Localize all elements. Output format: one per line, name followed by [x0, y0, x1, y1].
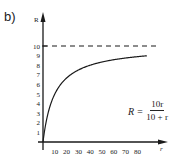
x-tick-label: 60	[110, 148, 118, 156]
formula-lhs: R =	[128, 106, 143, 117]
x-tick-label: 70	[122, 148, 130, 156]
formula-numerator: 10r	[150, 99, 164, 111]
y-tick-label: 2	[37, 119, 41, 127]
y-tick-label: 8	[37, 62, 41, 70]
y-tick-label: 3	[37, 110, 41, 118]
y-tick-label: 1	[37, 129, 41, 137]
y-tick-label: 6	[37, 81, 41, 89]
y-tick-label: 10	[33, 43, 41, 51]
y-tick-label: 4	[37, 100, 41, 108]
x-axis-label: r	[160, 145, 163, 153]
formula-fraction: 10r 10 + r	[146, 99, 168, 123]
formula-annotation: R = 10r 10 + r	[128, 99, 168, 123]
y-axis-arrow-icon	[41, 12, 46, 22]
y-tick-label: 7	[37, 71, 41, 79]
x-axis-arrow-icon	[158, 140, 168, 145]
y-tick-label: 9	[37, 52, 41, 60]
x-tick-label: 40	[87, 148, 95, 156]
x-tick-label: 10	[51, 148, 59, 156]
chart-figure: b) Rr123456789101020304050607080 R = 10r…	[0, 0, 182, 166]
x-tick-label: 20	[63, 148, 71, 156]
x-tick-label: 50	[99, 148, 107, 156]
formula-denominator: 10 + r	[146, 111, 168, 123]
x-tick-label: 30	[75, 148, 83, 156]
y-axis-label: R	[34, 16, 39, 24]
y-tick-label: 5	[37, 91, 41, 99]
x-tick-label: 80	[134, 148, 142, 156]
plot-area: Rr123456789101020304050607080	[0, 0, 182, 166]
